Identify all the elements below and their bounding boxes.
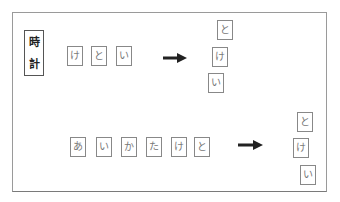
bottom-source-tile: た (146, 137, 162, 157)
bottom-source-tile: い (96, 137, 112, 157)
top-source-tile: い (116, 46, 132, 66)
bottom-result-tile: い (300, 165, 316, 185)
right-arrow-icon (163, 53, 187, 61)
bottom-result-tile: け (293, 138, 309, 158)
word-label-box: 時 計 (24, 30, 44, 76)
label-char: 時 (29, 37, 40, 48)
bottom-source-tile: あ (70, 137, 86, 157)
top-result-tile: い (208, 73, 224, 93)
bottom-source-tile: と (194, 137, 210, 157)
bottom-result-tile: と (297, 112, 313, 132)
label-char: 計 (29, 59, 40, 70)
diagram-frame (12, 12, 327, 192)
top-source-tile: と (91, 46, 107, 66)
right-arrow-icon (238, 140, 263, 148)
top-source-tile: け (67, 46, 83, 66)
bottom-source-tile: け (171, 137, 187, 157)
bottom-source-tile: か (121, 137, 137, 157)
top-result-tile: と (217, 20, 233, 40)
top-result-tile: け (212, 47, 228, 67)
